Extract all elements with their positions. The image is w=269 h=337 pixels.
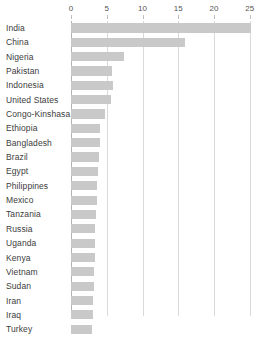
category-label: Vietnam	[6, 265, 38, 279]
bar-track	[71, 35, 257, 49]
category-label: Sudan	[6, 279, 31, 293]
bar	[71, 224, 95, 233]
x-axis-tick-label: 15	[174, 4, 183, 13]
bar-row: Iran	[0, 294, 269, 308]
bar-track	[71, 193, 257, 207]
bar	[71, 95, 111, 104]
category-label: Kenya	[6, 251, 31, 265]
bar-row: Uganda	[0, 236, 269, 250]
bar	[71, 282, 94, 291]
bar	[71, 66, 112, 75]
category-label: Brazil	[6, 150, 28, 164]
bar-track	[71, 136, 257, 150]
category-label: Philippines	[6, 179, 48, 193]
bar-row: Kenya	[0, 251, 269, 265]
category-label: Uganda	[6, 236, 36, 250]
bar	[71, 239, 95, 248]
bar-track	[71, 21, 257, 35]
bar-row: Bangladesh	[0, 136, 269, 150]
category-label: China	[6, 35, 29, 49]
bar-track	[71, 265, 257, 279]
category-label: Tanzania	[6, 207, 41, 221]
bar-row: Brazil	[0, 150, 269, 164]
bar	[71, 310, 93, 319]
category-label: Iran	[6, 294, 21, 308]
bar-track	[71, 294, 257, 308]
bar-track	[71, 64, 257, 78]
bar	[71, 52, 124, 61]
bar-row: Iraq	[0, 308, 269, 322]
bar-row: Egypt	[0, 164, 269, 178]
bar-row: Indonesia	[0, 78, 269, 92]
x-axis-tick-label: 25	[245, 4, 254, 13]
bar	[71, 138, 100, 147]
bar-row: Vietnam	[0, 265, 269, 279]
category-label: Congo-Kinshasa	[6, 107, 70, 121]
bar-track	[71, 279, 257, 293]
bar-row: Sudan	[0, 279, 269, 293]
category-label: Pakistan	[6, 64, 39, 78]
category-label: Turkey	[6, 322, 32, 336]
bar-row: United States	[0, 93, 269, 107]
bar-row: Turkey	[0, 322, 269, 336]
bar-row: China	[0, 35, 269, 49]
bar-row: Pakistan	[0, 64, 269, 78]
bar-track	[71, 150, 257, 164]
x-axis: 0510152025	[0, 0, 269, 22]
bar-rows: IndiaChinaNigeriaPakistanIndonesiaUnited…	[0, 21, 269, 316]
bar	[71, 296, 93, 305]
bar	[71, 181, 97, 190]
bar-track	[71, 236, 257, 250]
category-label: Bangladesh	[6, 136, 52, 150]
bar-track	[71, 121, 257, 135]
bar-row: Nigeria	[0, 50, 269, 64]
bar	[71, 152, 99, 161]
category-label: Iraq	[6, 308, 21, 322]
category-label: Russia	[6, 222, 33, 236]
bar-row: Russia	[0, 222, 269, 236]
bar	[71, 325, 92, 334]
category-label: Egypt	[6, 164, 28, 178]
bar	[71, 23, 251, 32]
bar	[71, 81, 113, 90]
bar	[71, 210, 96, 219]
bar	[71, 253, 95, 262]
bar-track	[71, 308, 257, 322]
bar	[71, 124, 100, 133]
bar-track	[71, 78, 257, 92]
bar-track	[71, 251, 257, 265]
category-label: Ethiopia	[6, 121, 38, 135]
bar	[71, 38, 185, 47]
x-axis-tick-mark	[250, 15, 251, 19]
bar	[71, 109, 105, 118]
x-axis-tick-mark	[143, 15, 144, 19]
bar	[71, 167, 98, 176]
category-label: Nigeria	[6, 50, 34, 64]
x-axis-tick-mark	[214, 15, 215, 19]
bar	[71, 267, 94, 276]
x-axis-tick-mark	[178, 15, 179, 19]
category-label: India	[6, 21, 25, 35]
category-label: Mexico	[6, 193, 34, 207]
x-axis-tick-label: 0	[69, 4, 74, 13]
bar-track	[71, 207, 257, 221]
bar-row: India	[0, 21, 269, 35]
bar-track	[71, 107, 257, 121]
bar-track	[71, 322, 257, 336]
bar-row: Congo-Kinshasa	[0, 107, 269, 121]
bar-row: Tanzania	[0, 207, 269, 221]
bar-row: Mexico	[0, 193, 269, 207]
x-axis-tick-label: 5	[104, 4, 109, 13]
x-axis-tick-label: 10	[138, 4, 147, 13]
bar-row: Ethiopia	[0, 121, 269, 135]
bar-track	[71, 164, 257, 178]
bar-track	[71, 93, 257, 107]
bar-track	[71, 50, 257, 64]
x-axis-tick-mark	[71, 15, 72, 19]
category-label: Indonesia	[6, 78, 44, 92]
bar	[71, 196, 97, 205]
bar-row: Philippines	[0, 179, 269, 193]
x-axis-tick-mark	[107, 15, 108, 19]
bar-track	[71, 222, 257, 236]
